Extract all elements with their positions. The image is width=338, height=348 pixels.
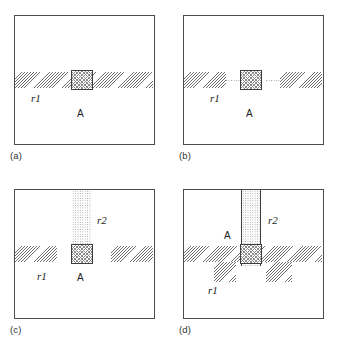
- panel-d: r2 A r1 (d): [169, 174, 338, 348]
- region-a-square: [71, 70, 93, 90]
- label-r1: r1: [37, 270, 47, 282]
- panel-caption-c: (c): [10, 324, 22, 335]
- panel-caption-d: (d): [179, 324, 191, 335]
- region-r1-band-left: [184, 72, 226, 88]
- panel-a: r1 A (a): [0, 0, 169, 174]
- region-a-square: [240, 70, 262, 90]
- panel-c: r2 r1 A (c): [0, 174, 169, 348]
- panel-a-frame: r1 A: [14, 15, 155, 145]
- panel-c-frame: r2 r1 A: [14, 189, 155, 319]
- region-a-square: [71, 244, 93, 264]
- region-r2-column: [72, 190, 92, 246]
- region-r1-band-right: [111, 246, 153, 262]
- panel-caption-b: (b): [179, 150, 191, 161]
- boundary-dotted-right: [266, 80, 280, 81]
- figure-container: r1 A (a) r1 A (b) r2 r1 A (c): [0, 0, 338, 348]
- panel-caption-a: (a): [10, 150, 22, 161]
- region-a-square: [240, 244, 262, 264]
- label-r1: r1: [31, 92, 41, 104]
- region-r1-band-right: [280, 72, 322, 88]
- label-r2: r2: [268, 214, 278, 226]
- panel-b-frame: r1 A: [183, 15, 324, 145]
- label-r1: r1: [208, 284, 218, 296]
- region-r1-band-left: [15, 246, 57, 262]
- label-a: A: [77, 108, 84, 119]
- label-a: A: [246, 108, 253, 119]
- panel-b: r1 A (b): [169, 0, 338, 174]
- label-a: A: [224, 230, 231, 241]
- panel-d-frame: r2 A r1: [183, 189, 324, 319]
- label-a: A: [77, 272, 84, 283]
- label-r1: r1: [210, 92, 220, 104]
- boundary-dotted-left: [226, 80, 240, 81]
- label-r2: r2: [97, 214, 107, 226]
